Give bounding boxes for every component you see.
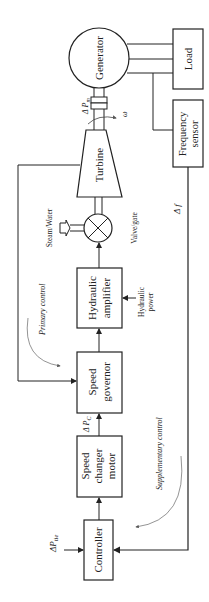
frequency-sensor-label-1: Frequency	[177, 111, 188, 156]
valve-gate-label: Valve/gate	[130, 212, 139, 244]
omega-label: ω	[120, 111, 129, 117]
controller-label: Controller	[92, 527, 104, 573]
generator-label: Generator	[93, 36, 105, 80]
steam-water-label: Steam/Water	[45, 208, 54, 247]
frequency-sensor-label-2: sensor	[189, 120, 200, 147]
block-diagram: Generator Load Frequency sensor Δ Pm ω T…	[0, 0, 209, 602]
primary-feedback-line	[18, 165, 80, 381]
supplementary-control-label: Supplementary control	[155, 416, 164, 490]
hydraulic-power-label-2: power	[146, 292, 155, 311]
frequency-sensor-block: Frequency sensor	[173, 100, 203, 167]
hydraulic-amplifier-label-1: Hydraulic	[86, 276, 98, 320]
speed-governor-block: Speed governor	[77, 352, 122, 413]
speed-governor-label-2: governor	[100, 362, 112, 402]
shaft-coupling	[91, 88, 107, 130]
delta-ptie-label: ΔPtie	[48, 535, 59, 553]
valve-gate	[84, 214, 112, 242]
turbine-block: Turbine	[77, 130, 122, 197]
speed-changer-motor-block: Speed changer motor	[77, 436, 122, 497]
turbine-valve-pipe	[95, 197, 102, 214]
controller-block: Controller	[84, 520, 113, 580]
delta-pc-label: Δ PC	[82, 416, 92, 433]
frequency-feedback-line	[114, 167, 188, 550]
generator-load-lines	[127, 44, 173, 130]
load-label: Load	[182, 47, 194, 70]
load-block: Load	[173, 29, 203, 89]
hydraulic-amplifier-block: Hydraulic amplifier	[77, 268, 122, 328]
speed-changer-label-1: Speed	[79, 452, 91, 479]
rotation-arrow-icon	[88, 117, 116, 124]
hydraulic-amplifier-label-2: amplifier	[100, 278, 112, 319]
generator-block: Generator	[69, 28, 129, 88]
delta-pm-label: Δ Pm	[81, 98, 91, 115]
primary-control-label: Primary control	[38, 283, 47, 336]
speed-changer-label-3: motor	[105, 453, 117, 480]
speed-changer-label-2: changer	[92, 448, 104, 483]
turbine-label: Turbine	[93, 148, 105, 183]
hydraulic-power-label-1: Hydraulic	[137, 286, 146, 317]
speed-governor-label-1: Speed	[86, 368, 98, 395]
delta-f-label: Δ f	[172, 203, 182, 215]
steam-inlet	[60, 220, 84, 236]
